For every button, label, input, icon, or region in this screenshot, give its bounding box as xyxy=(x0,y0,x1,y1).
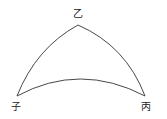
vertex-label-left: 子 xyxy=(11,101,21,112)
spherical-triangle-diagram: 乙 子 丙 xyxy=(0,0,167,119)
arc-bottom xyxy=(17,79,145,96)
vertex-label-right: 丙 xyxy=(141,101,151,112)
arc-left xyxy=(17,25,78,96)
vertex-label-top: 乙 xyxy=(73,8,83,19)
arc-right xyxy=(78,25,145,96)
